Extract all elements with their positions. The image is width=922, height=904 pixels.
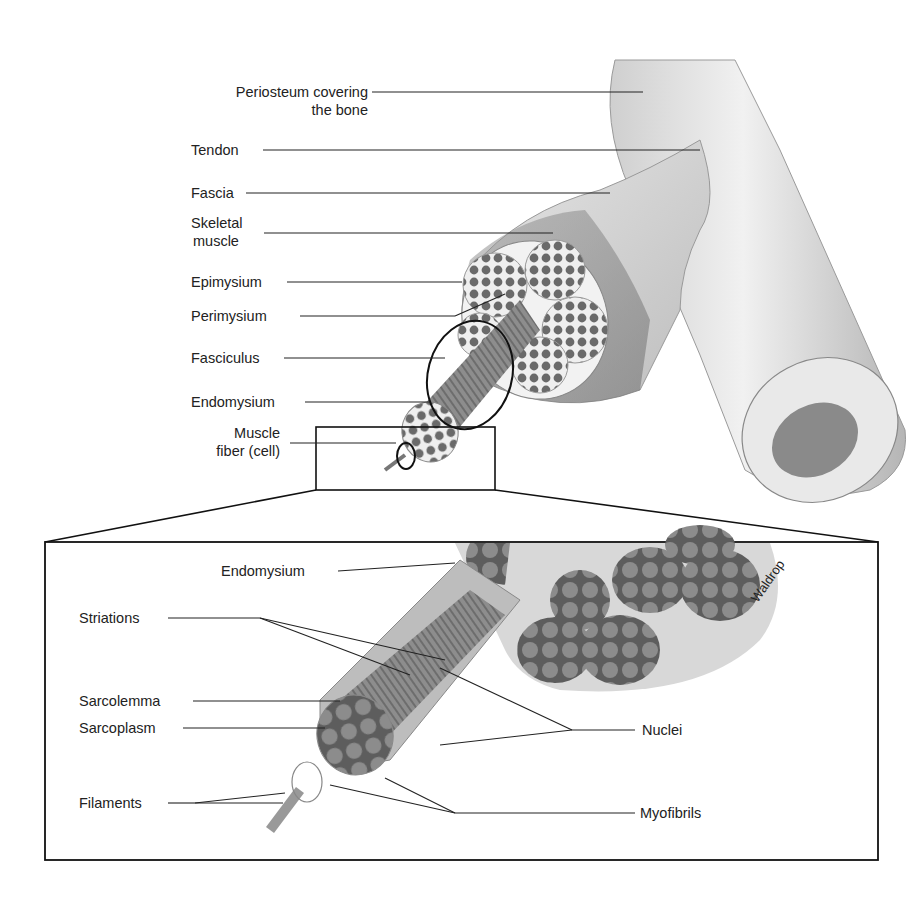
label-sarcoplasm: Sarcoplasm [79, 719, 156, 737]
label-myofibrils: Myofibrils [640, 804, 701, 822]
label-line: the bone [186, 101, 368, 119]
label-sarcolemma: Sarcolemma [79, 692, 160, 710]
label-periosteum: Periosteum covering the bone [186, 83, 368, 119]
label-nuclei: Nuclei [642, 721, 682, 739]
label-tendon: Tendon [191, 141, 239, 159]
label-line: muscle [191, 232, 243, 250]
label-epimysium: Epimysium [191, 273, 262, 291]
label-perimysium: Perimysium [191, 307, 267, 325]
label-line: fiber (cell) [186, 442, 280, 460]
illustration [0, 0, 922, 904]
label-line: Muscle [186, 424, 280, 442]
label-fascia: Fascia [191, 184, 234, 202]
label-striations: Striations [79, 609, 139, 627]
label-endomysium-inset: Endomysium [221, 562, 305, 580]
label-endomysium: Endomysium [191, 393, 275, 411]
label-skeletal-muscle: Skeletal muscle [191, 214, 243, 250]
label-fasciculus: Fasciculus [191, 349, 260, 367]
label-line: Skeletal [191, 214, 243, 232]
muscle-anatomy-diagram: Periosteum covering the bone Tendon Fasc… [0, 0, 922, 904]
label-filaments: Filaments [79, 794, 142, 812]
label-line: Periosteum covering [186, 83, 368, 101]
label-muscle-fiber: Muscle fiber (cell) [186, 424, 280, 460]
